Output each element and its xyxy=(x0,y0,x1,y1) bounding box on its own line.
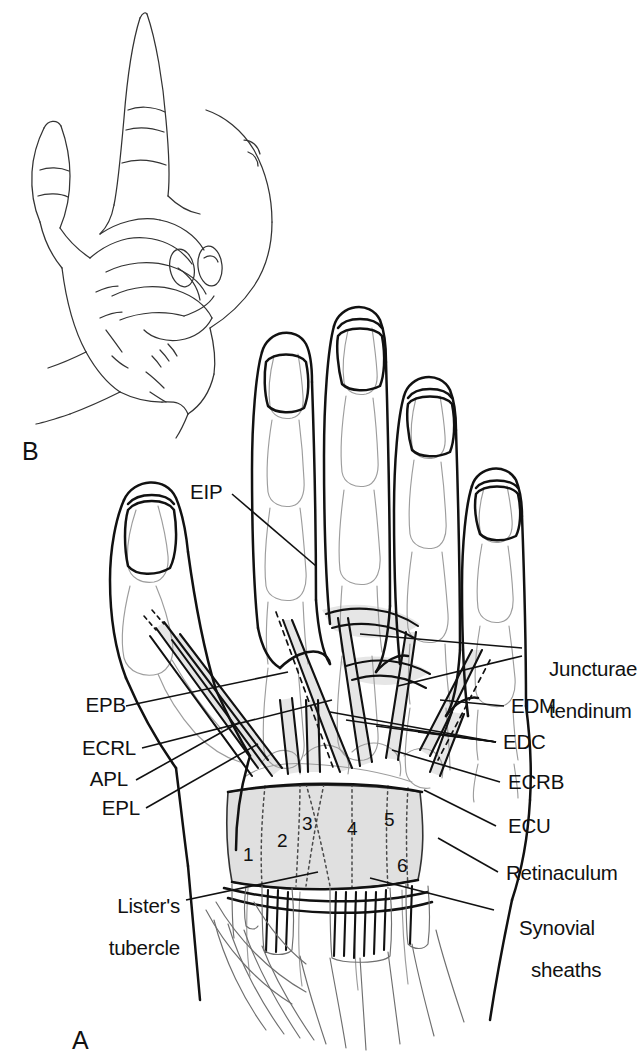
compartment-number-3: 3 xyxy=(302,813,313,835)
label-ecrb: ECRB xyxy=(508,771,564,792)
compartment-number-2: 2 xyxy=(277,830,288,852)
label-epb: EPB xyxy=(70,694,126,715)
label-juncturae-tendinum: Juncturae tendinum xyxy=(527,637,637,742)
label-epl: EPL xyxy=(72,797,140,818)
label-edc: EDC xyxy=(503,731,546,752)
label-listers-tubercle: Lister's tubercle xyxy=(48,874,180,979)
synovial-line-1: Synovial xyxy=(519,916,595,939)
compartment-number-5: 5 xyxy=(384,809,395,831)
extensor-retinaculum xyxy=(227,785,423,889)
juncturae-line-2: tendinum xyxy=(549,699,632,722)
label-ecu: ECU xyxy=(508,815,551,836)
label-edm: EDM xyxy=(511,695,556,716)
synovial-line-2: sheaths xyxy=(531,958,601,981)
compartment-number-1: 1 xyxy=(243,844,254,866)
panel-letter-b: B xyxy=(22,437,39,466)
label-eip: EIP xyxy=(190,481,222,502)
label-ecrl: ECRL xyxy=(62,737,136,758)
label-retinaculum: Retinaculum xyxy=(506,862,618,883)
compartment-number-4: 4 xyxy=(347,818,358,840)
listers-line-2: tubercle xyxy=(109,936,180,959)
compartment-number-6: 6 xyxy=(397,855,408,877)
panel-letter-a: A xyxy=(72,1026,89,1055)
listers-line-1: Lister's xyxy=(117,894,180,917)
label-apl: APL xyxy=(64,768,128,789)
juncturae-line-1: Juncturae xyxy=(549,657,637,680)
label-synovial-sheaths: Synovial sheaths xyxy=(497,896,601,1001)
